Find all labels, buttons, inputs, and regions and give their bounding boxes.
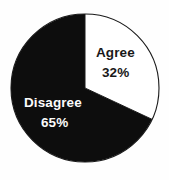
pie-label-disagree: Disagree (24, 96, 82, 110)
pie-value-agree: 32% (102, 66, 129, 80)
pie-chart-figure: Agree 32% Disagree 65% (0, 0, 169, 180)
pie-chart-svg (0, 0, 169, 180)
pie-label-agree: Agree (96, 46, 135, 60)
pie-value-disagree: 65% (41, 116, 68, 130)
